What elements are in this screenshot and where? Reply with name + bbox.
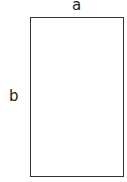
rectangle-shape <box>30 17 124 177</box>
side-label-b: b <box>9 89 19 104</box>
side-label-a: a <box>72 0 81 13</box>
